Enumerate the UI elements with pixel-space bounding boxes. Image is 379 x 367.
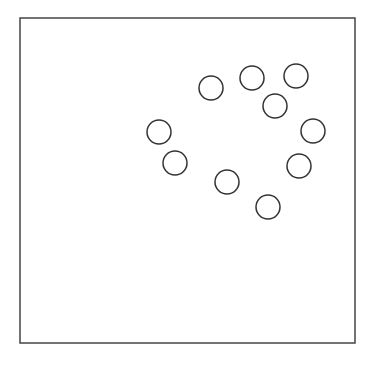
circle-6 <box>163 151 187 175</box>
circle-7 <box>301 119 325 143</box>
circle-1 <box>199 76 223 100</box>
circle-5 <box>147 120 171 144</box>
circle-10 <box>256 195 280 219</box>
circle-group <box>147 64 325 219</box>
circle-2 <box>240 66 264 90</box>
circle-8 <box>287 154 311 178</box>
circle-4 <box>263 94 287 118</box>
circle-3 <box>284 64 308 88</box>
diagram-canvas <box>0 0 379 367</box>
circle-9 <box>215 170 239 194</box>
